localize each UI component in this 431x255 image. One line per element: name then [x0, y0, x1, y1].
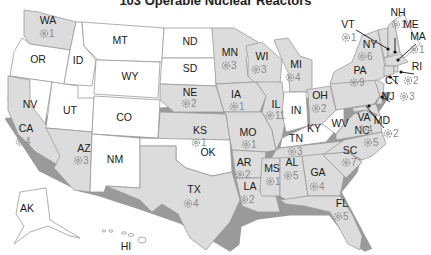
state-label-CA: CA	[19, 122, 34, 134]
reactor-count-NY: 6	[367, 51, 373, 62]
reactor-count-TX: 4	[193, 198, 199, 209]
state-label-WV: WV	[332, 117, 349, 129]
state-label-NV: NV	[23, 98, 38, 110]
state-label-AZ: AZ	[77, 142, 91, 154]
reactor-count-MO: 1	[251, 139, 257, 150]
reactor-count-MD: 2	[393, 128, 399, 139]
state-label-IL: IL	[272, 98, 281, 110]
reactor-gear-icon	[342, 34, 349, 41]
state-label-IA: IA	[231, 88, 241, 100]
state-label-MN: MN	[222, 46, 238, 58]
state-label-MD: MD	[374, 114, 391, 126]
reactor-count-AL: 5	[293, 170, 299, 181]
state-label-VT: VT	[341, 18, 355, 30]
reactor-count-GA: 4	[319, 181, 325, 192]
reactor-count-LA: 2	[249, 194, 255, 205]
state-label-PA: PA	[353, 64, 366, 76]
reactor-count-IL: 11	[275, 110, 286, 121]
state-label-ID: ID	[73, 54, 84, 66]
leader-dot-MA	[396, 58, 399, 61]
state-label-NJ: NJ	[382, 90, 395, 102]
reactor-count-CA: 4	[25, 136, 31, 147]
state-label-TX: TX	[187, 183, 200, 195]
state-label-NE: NE	[183, 86, 198, 98]
reactor-count-MI: 4	[295, 72, 301, 83]
state-label-KY: KY	[307, 122, 321, 134]
leader-dot-NH	[393, 50, 396, 53]
reactor-count-SC: 7	[351, 157, 357, 168]
reactor-count-CT: 2	[413, 75, 419, 86]
reactor-gear-icon	[384, 130, 391, 137]
state-label-NM: NM	[107, 153, 123, 165]
reactor-count-FL: 5	[343, 211, 349, 222]
state-label-LA: LA	[244, 180, 257, 192]
us-map: WA1ORIDMTWYNDSDNVUTCOCA4AZ3NMMN3WI3MI4NE…	[0, 0, 431, 255]
state-label-NY: NY	[363, 38, 378, 50]
state-label-ND: ND	[182, 35, 198, 47]
state-label-FL: FL	[336, 197, 348, 209]
reactor-count-WI: 3	[261, 64, 267, 75]
reactor-count-IA: 1	[239, 101, 245, 112]
reactor-count-VT: 1	[351, 32, 357, 43]
state-label-ME: ME	[403, 18, 419, 30]
reactor-count-MS: 1	[275, 176, 281, 187]
reactor-gear-icon	[400, 93, 407, 100]
reactor-count-WA: 1	[49, 28, 55, 39]
reactor-count-OH: 2	[321, 103, 327, 114]
state-label-VA: VA	[357, 111, 370, 123]
state-WI[interactable]	[246, 42, 282, 84]
reactor-count-AR: 2	[245, 169, 251, 180]
state-label-SC: SC	[343, 144, 358, 156]
state-label-MA: MA	[410, 30, 426, 42]
state-label-WA: WA	[40, 14, 57, 26]
state-label-TN: TN	[289, 132, 303, 144]
state-label-GA: GA	[310, 166, 325, 178]
reactor-gear-icon	[404, 77, 411, 84]
state-label-MT: MT	[112, 34, 128, 46]
state-label-OH: OH	[312, 89, 328, 101]
state-AK[interactable]	[14, 188, 80, 244]
reactor-count-VA: 4	[367, 124, 373, 135]
state-label-AL: AL	[286, 156, 299, 168]
state-FL[interactable]	[280, 196, 362, 250]
reactor-count-NC: 5	[373, 137, 379, 148]
reactor-count-MA: 1	[419, 44, 425, 55]
state-label-UT: UT	[63, 104, 78, 116]
state-RI[interactable]	[394, 66, 398, 72]
state-label-IN: IN	[291, 104, 302, 116]
state-label-OR: OR	[30, 53, 46, 65]
leader-dot-VT	[386, 47, 389, 50]
state-label-MS: MS	[264, 162, 280, 174]
state-label-KS: KS	[193, 124, 207, 136]
reactor-count-AZ: 3	[83, 155, 89, 166]
state-label-RI: RI	[412, 60, 423, 72]
reactor-count-NE: 2	[191, 98, 197, 109]
reactor-count-PA: 9	[359, 77, 365, 88]
leader-dot-MD	[367, 104, 370, 107]
state-label-HI: HI	[121, 240, 132, 252]
state-label-AK: AK	[20, 202, 34, 214]
state-label-WY: WY	[122, 70, 139, 82]
state-label-CT: CT	[385, 74, 400, 86]
state-label-CO: CO	[116, 111, 132, 123]
state-label-NH: NH	[390, 6, 405, 18]
reactor-count-MN: 3	[231, 60, 237, 71]
leader-dot-RI	[399, 70, 402, 73]
state-label-OK: OK	[200, 146, 215, 158]
reactor-count-NJ: 3	[409, 91, 415, 102]
state-label-WI: WI	[256, 50, 269, 62]
leader-RI	[401, 72, 414, 74]
state-label-SD: SD	[183, 62, 198, 74]
state-label-AR: AR	[237, 156, 252, 168]
state-label-MO: MO	[240, 126, 257, 138]
state-label-MI: MI	[290, 58, 302, 70]
